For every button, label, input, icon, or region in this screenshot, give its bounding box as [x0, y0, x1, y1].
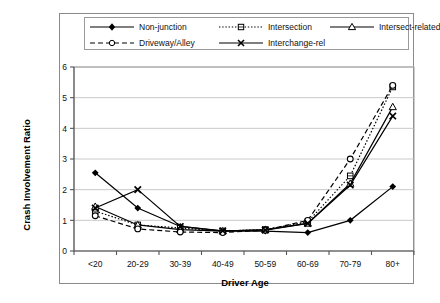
y-tick-label: 3 [62, 154, 67, 164]
y-tick-label: 5 [62, 93, 67, 103]
data-point-open-circle [177, 229, 183, 235]
data-point-open-circle [92, 213, 98, 219]
y-tick-label: 6 [62, 62, 67, 72]
data-point-open-triangle [389, 103, 396, 109]
x-tick-label: 30-39 [169, 259, 191, 269]
x-tick-label: 60-69 [297, 259, 319, 269]
series-intersect-related [92, 103, 397, 234]
x-tick-label: <20 [88, 259, 103, 269]
x-tick-label: 20-29 [127, 259, 149, 269]
x-tick-label: 50-59 [254, 259, 276, 269]
x-tick-label: 40-49 [212, 259, 234, 269]
y-tick-label: 1 [62, 216, 67, 226]
x-tick-label: 80+ [386, 259, 400, 269]
x-tick-label: 70-79 [339, 259, 361, 269]
data-point-open-circle [347, 156, 353, 162]
data-point-cross-x [390, 113, 396, 119]
data-point-small-square [347, 173, 353, 179]
data-point-open-circle [135, 226, 141, 232]
x-axis-ticks: <2020-2930-3940-4950-5960-6970-7980+ [74, 251, 414, 269]
data-point-open-circle [390, 83, 396, 89]
y-axis-ticks: 0123456 [62, 62, 74, 256]
y-tick-label: 4 [62, 124, 67, 134]
y-tick-label: 0 [62, 246, 67, 256]
y-tick-label: 2 [62, 185, 67, 195]
x-axis-title: Driver Age [221, 277, 269, 288]
y-axis-title: Crash Involvement Ratio [21, 119, 32, 231]
data-point-filled-diamond [304, 229, 311, 236]
